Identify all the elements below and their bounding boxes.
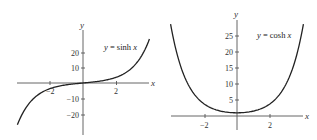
cosh-y-axis-label: y [233, 9, 238, 19]
sinh-y-tick-label-neg10: −10 [66, 95, 79, 104]
cosh-y-tick-label-15: 15 [225, 64, 233, 73]
cosh-y-tick-label-10: 10 [225, 80, 233, 89]
cosh-graph: x y −2 2 25 20 15 10 5 y = cosh x [171, 9, 309, 130]
cosh-legend: y = cosh x [256, 30, 292, 40]
sinh-y-tick-label-20: 20 [71, 49, 79, 58]
sinh-y-axis-label: y [79, 20, 84, 30]
cosh-y-tick-label-25: 25 [225, 32, 233, 41]
sinh-y-tick-label-10: 10 [71, 64, 79, 73]
cosh-x-tick-label-pos2: 2 [268, 121, 272, 130]
hyperbolic-functions-figure: x y −2 2 20 10 −10 −20 y = sinh x x y −2… [0, 0, 317, 140]
cosh-y-tick-label-5: 5 [229, 96, 233, 105]
cosh-x-axis-label: x [304, 111, 309, 121]
cosh-x-tick-label-neg2: −2 [200, 121, 209, 130]
cosh-y-tick-label-20: 20 [225, 48, 233, 57]
sinh-legend: y = sinh x [103, 42, 137, 52]
sinh-graph: x y −2 2 20 10 −10 −20 y = sinh x [17, 20, 155, 135]
sinh-x-tick-label-pos2: 2 [114, 87, 118, 96]
sinh-y-tick-label-neg20: −20 [66, 111, 79, 120]
sinh-x-axis-label: x [150, 78, 155, 88]
